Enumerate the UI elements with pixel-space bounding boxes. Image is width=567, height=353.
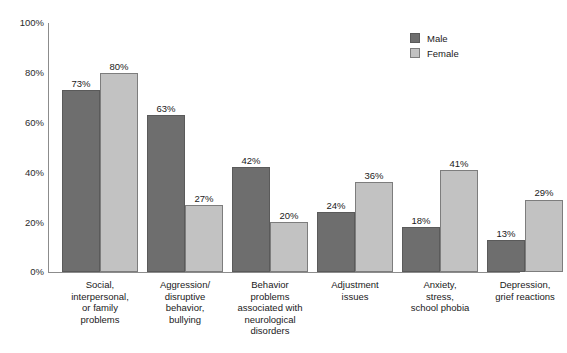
bar-value-label: 41%	[437, 158, 481, 169]
y-tick-label: 100%	[2, 18, 44, 28]
bar-value-label: 29%	[522, 187, 566, 198]
bar-group: 42% 20%	[232, 23, 308, 272]
bar-group: 24% 36%	[317, 23, 393, 272]
bar-female	[185, 205, 223, 272]
bar-value-label: 36%	[352, 170, 396, 181]
bar-group: 63% 27%	[147, 23, 223, 272]
y-tick-label: 20%	[2, 218, 44, 228]
bar-value-label: 80%	[97, 61, 141, 72]
bar-value-label: 18%	[399, 215, 443, 226]
chart-legend: Male Female	[410, 31, 459, 61]
category-label: Depression, grief reactions	[473, 279, 567, 302]
x-axis-category-labels: Social, interpersonal, or family problem…	[49, 279, 520, 353]
bar-male	[487, 240, 525, 272]
bar-female	[355, 182, 393, 272]
bar-male	[402, 227, 440, 272]
legend-item-male: Male	[410, 31, 459, 45]
bar-female	[100, 73, 138, 272]
bar-male	[317, 212, 355, 272]
bar-value-label: 24%	[314, 200, 358, 211]
bar-female	[440, 170, 478, 272]
legend-label: Male	[427, 33, 448, 44]
bar-value-label: 13%	[484, 228, 528, 239]
bar-male	[147, 115, 185, 272]
bar-value-label: 27%	[182, 193, 226, 204]
bar-value-label: 73%	[59, 78, 103, 89]
y-axis-tick-labels: 100% 80% 60% 40% 20% 0%	[0, 0, 44, 353]
bar-male	[62, 90, 100, 272]
bar-value-label: 42%	[229, 155, 273, 166]
legend-swatch-icon	[410, 48, 420, 58]
bar-group: 73% 80%	[62, 23, 138, 272]
bar-male	[232, 167, 270, 272]
bar-female	[270, 222, 308, 272]
y-tick-label: 40%	[2, 168, 44, 178]
y-tick-label: 80%	[2, 68, 44, 78]
legend-item-female: Female	[410, 46, 459, 60]
legend-label: Female	[427, 48, 459, 59]
y-tick-label: 60%	[2, 118, 44, 128]
bar-value-label: 63%	[144, 103, 188, 114]
bar-value-label: 20%	[267, 210, 311, 221]
x-axis-line	[48, 272, 520, 273]
bar-female	[525, 200, 563, 272]
y-tick-label: 0%	[2, 267, 44, 277]
legend-swatch-icon	[410, 33, 420, 43]
bar-group: 13% 29%	[487, 23, 563, 272]
